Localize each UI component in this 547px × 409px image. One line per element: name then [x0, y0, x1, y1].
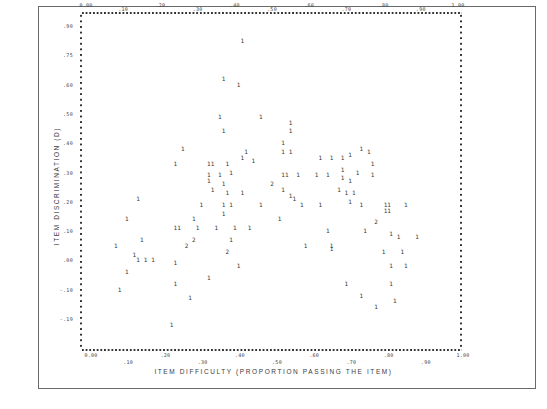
y-tick-label: .10 — [63, 228, 73, 234]
data-point: 1 — [188, 295, 192, 301]
data-point: 1 — [356, 170, 360, 176]
data-point: 1 — [237, 82, 241, 88]
data-point: 1 — [352, 190, 356, 196]
y-tick-label: .75 — [63, 52, 73, 58]
bottom-x-tick-label: .70 — [346, 359, 356, 365]
data-point: 1 — [359, 202, 363, 208]
data-point: 1 — [371, 161, 375, 167]
bottom-x-tick-label: .60 — [309, 352, 319, 358]
bottom-x-tick-label: .30 — [198, 359, 208, 365]
top-x-tick-label: .10 — [118, 6, 128, 12]
data-point: 1 — [173, 281, 177, 287]
data-point: 1 — [207, 275, 211, 281]
data-point: 1 — [389, 281, 393, 287]
top-x-tick-label: .60 — [304, 2, 314, 8]
data-point: 1 — [211, 187, 215, 193]
data-point: 1 — [359, 146, 363, 152]
data-point: 1 — [218, 172, 222, 178]
right-axis-dotted-border — [460, 13, 462, 350]
bottom-x-tick-label: .90 — [421, 359, 431, 365]
top-x-tick-label: .70 — [341, 6, 351, 12]
data-point: 1 — [240, 190, 244, 196]
data-point: 1 — [296, 172, 300, 178]
data-point: 1 — [389, 263, 393, 269]
data-point: 1 — [341, 155, 345, 161]
data-point: 1 — [345, 281, 349, 287]
data-point: 1 — [200, 202, 204, 208]
data-point: 1 — [285, 172, 289, 178]
data-point: 1 — [389, 231, 393, 237]
data-point: 1 — [192, 216, 196, 222]
data-point: 1 — [382, 249, 386, 255]
data-point: 1 — [222, 181, 226, 187]
data-point: 1 — [341, 175, 345, 181]
data-point: 1 — [348, 178, 352, 184]
data-point: 1 — [348, 199, 352, 205]
data-point: 1 — [226, 161, 230, 167]
bottom-axis-dotted-border — [81, 349, 462, 351]
y-tick-label: .50 — [63, 111, 73, 117]
y-tick-label: .20 — [63, 199, 73, 205]
top-x-tick-label: .90 — [416, 6, 426, 12]
data-point: 1 — [211, 161, 215, 167]
data-point: 1 — [341, 167, 345, 173]
data-point: 1 — [278, 216, 282, 222]
data-point: 1 — [415, 234, 419, 240]
bottom-x-tick-label: 1.00 — [456, 352, 469, 358]
data-point: 1 — [196, 225, 200, 231]
top-x-tick-label: .30 — [193, 6, 203, 12]
data-point: 1 — [281, 140, 285, 146]
top-x-tick-label: 0.00 — [79, 2, 92, 8]
bottom-x-tick-label: 0.00 — [84, 352, 97, 358]
data-point: 1 — [371, 172, 375, 178]
data-point: 1 — [226, 190, 230, 196]
data-point: 1 — [207, 178, 211, 184]
data-point: 1 — [330, 246, 334, 252]
data-point: 1 — [222, 202, 226, 208]
data-point: 1 — [229, 237, 233, 243]
bottom-x-tick-label: .10 — [123, 359, 133, 365]
data-point: 1 — [293, 196, 297, 202]
data-point: 1 — [222, 211, 226, 217]
data-point: 1 — [125, 269, 129, 275]
x-axis-title: ITEM DIFFICULTY (PROPORTION PASSING THE … — [0, 368, 547, 375]
data-point: 2 — [374, 219, 378, 225]
data-point: 1 — [393, 298, 397, 304]
data-point: 1 — [222, 128, 226, 134]
data-point: 1 — [289, 128, 293, 134]
data-point: 1 — [248, 225, 252, 231]
data-point: 1 — [367, 149, 371, 155]
data-point: 1 — [173, 260, 177, 266]
y-tick-label: .40 — [63, 140, 73, 146]
data-point: 1 — [319, 202, 323, 208]
top-x-tick-label: .20 — [155, 2, 165, 8]
top-x-tick-label: .40 — [230, 2, 240, 8]
data-point: 1 — [300, 202, 304, 208]
data-point: 1 — [222, 76, 226, 82]
data-point: 1 — [214, 225, 218, 231]
data-point: 1 — [315, 172, 319, 178]
data-point: 1 — [136, 196, 140, 202]
data-point: 1 — [326, 228, 330, 234]
data-point: 1 — [177, 225, 181, 231]
data-point: 1 — [181, 146, 185, 152]
data-point: 1 — [233, 225, 237, 231]
data-point: 1 — [118, 287, 122, 293]
top-x-tick-label: .80 — [379, 2, 389, 8]
bottom-x-tick-label: .80 — [384, 352, 394, 358]
data-point: 1 — [252, 158, 256, 164]
y-tick-label: .30 — [63, 170, 73, 176]
data-point: 1 — [114, 243, 118, 249]
data-point: 1 — [237, 263, 241, 269]
data-point: 1 — [397, 234, 401, 240]
top-axis-dotted-border — [81, 12, 462, 14]
data-point: 1 — [337, 187, 341, 193]
data-point: 1 — [240, 155, 244, 161]
data-point: 1 — [319, 155, 323, 161]
y-tick-label: -.19 — [60, 316, 73, 322]
bottom-x-tick-label: .50 — [272, 359, 282, 365]
data-point: 1 — [330, 155, 334, 161]
data-point: 1 — [400, 249, 404, 255]
data-point: 1 — [281, 149, 285, 155]
data-point: 1 — [125, 216, 129, 222]
